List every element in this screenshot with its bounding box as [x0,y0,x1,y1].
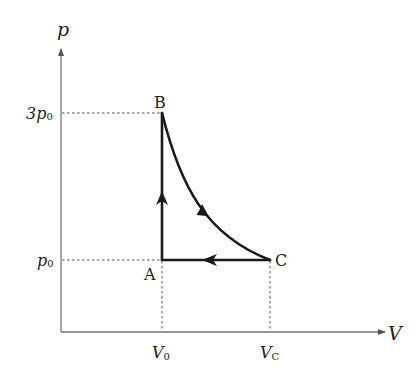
pv-diagram: p V 3p0 p0 V0 VC B A C [0,0,419,372]
tick-p0: p0 [37,251,54,270]
guide-lines [62,113,270,331]
point-label-b: B [154,93,166,112]
tick-3p0: 3p0 [26,104,53,123]
tick-vc: VC [260,343,280,362]
process-b-to-c [162,113,270,260]
y-axis-label: p [57,18,69,40]
x-axis-label: V [388,322,404,344]
point-label-c: C [275,251,287,270]
thermo-cycle [162,113,270,260]
point-label-a: A [143,265,156,284]
tick-v0: V0 [152,343,170,362]
arrow-down-right-icon [195,203,209,218]
axes [61,49,385,332]
direction-arrows [156,191,217,266]
